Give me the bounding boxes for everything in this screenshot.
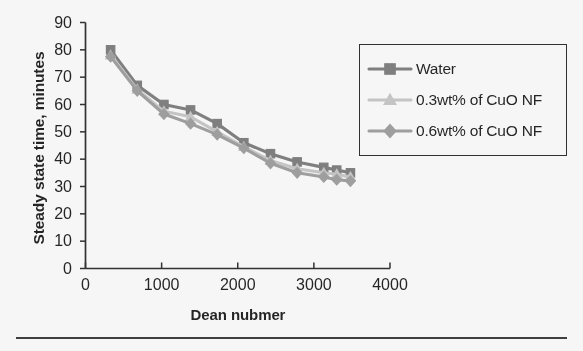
series-line — [111, 50, 351, 173]
legend-label: Water — [413, 60, 456, 78]
series-line — [111, 55, 351, 177]
data-point-marker-diamond — [384, 124, 396, 137]
data-point-marker-square — [385, 63, 395, 73]
series-line — [111, 57, 351, 181]
figure-chart-steady-state-time: Steady state time, minutes 9080706050403… — [0, 0, 583, 351]
legend-item: 0.6wt% of CuO NF — [360, 115, 566, 146]
legend-item: Water — [360, 53, 566, 84]
legend-swatch-diamond-icon — [367, 121, 413, 141]
chart-legend: Water0.3wt% of CuO NF0.6wt% of CuO NF — [359, 44, 567, 156]
series-0-3wt-of-cuo-nf — [106, 50, 355, 180]
legend-swatch-square-icon — [367, 59, 413, 79]
legend-item: 0.3wt% of CuO NF — [360, 84, 566, 115]
legend-swatch-triangle-icon — [367, 90, 413, 110]
legend-label: 0.3wt% of CuO NF — [413, 91, 542, 109]
figure-caption-divider — [16, 337, 567, 339]
series-water — [106, 46, 354, 177]
legend-label: 0.6wt% of CuO NF — [413, 122, 542, 140]
